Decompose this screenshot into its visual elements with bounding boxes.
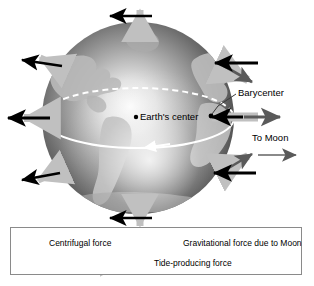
legend-label-centrifugal: Centrifugal force (49, 239, 111, 248)
barycenter-dot (209, 114, 214, 119)
barycenter-label: Barycenter (238, 88, 284, 98)
legend-label-gravitational: Gravitational force due to Moon (183, 239, 302, 248)
tidal-force-diagram: Barycenter Earth's center To Moon Centri… (0, 0, 314, 286)
legend-label-tide: Tide-producing force (154, 259, 232, 268)
earth-globe (42, 22, 234, 214)
earth-center-dot (134, 115, 138, 119)
to-moon-label: To Moon (252, 133, 288, 143)
continents (42, 22, 234, 214)
earth-center-label: Earth's center (140, 112, 198, 122)
legend: Centrifugal force Gravitational force du… (10, 227, 302, 275)
